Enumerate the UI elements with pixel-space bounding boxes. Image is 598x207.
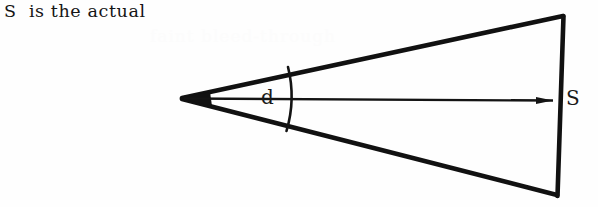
triangle-wedge-diagram xyxy=(0,0,598,207)
axis-base-arrowhead xyxy=(536,97,553,104)
wedge-upper-edge xyxy=(182,16,563,98)
angle-label-d: d xyxy=(261,85,274,109)
wedge-lower-edge xyxy=(182,99,557,195)
scanned-figure-page: faint bleed-through S is the actual d S xyxy=(0,0,598,207)
base-label-s: S xyxy=(566,86,580,110)
wedge-base-edge xyxy=(558,16,564,196)
center-axis-line xyxy=(184,99,553,101)
